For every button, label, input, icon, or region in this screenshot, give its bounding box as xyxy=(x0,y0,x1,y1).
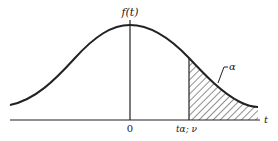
tail-area-region xyxy=(189,50,261,122)
x-axis-label: t xyxy=(264,114,269,125)
tail-area-label: α xyxy=(229,61,236,72)
alpha-leader-line xyxy=(218,67,228,83)
origin-label: 0 xyxy=(127,123,133,134)
t-distribution-diagram: f(t) 0 tα; ν t α xyxy=(0,0,278,141)
y-axis-label: f(t) xyxy=(120,6,138,19)
critical-value-label: tα; ν xyxy=(176,124,198,134)
